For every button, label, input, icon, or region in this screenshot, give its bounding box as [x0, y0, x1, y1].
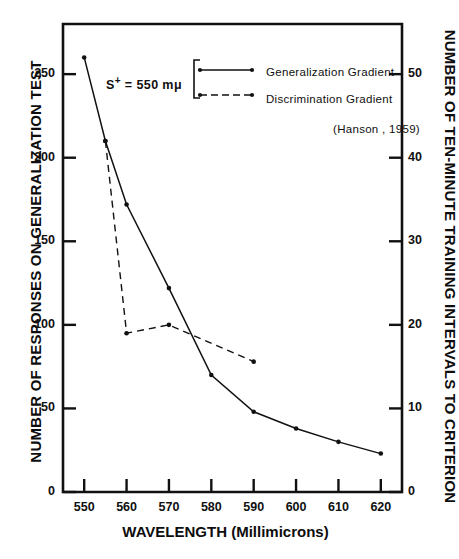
data-point: [251, 359, 256, 364]
data-series-layer: [82, 55, 383, 456]
x-axis-ticks: [84, 479, 381, 492]
y-tick-label-left: 0: [21, 484, 55, 498]
data-point: [379, 451, 384, 456]
y-axis-ticks-left: [63, 74, 76, 492]
legend-sample-dashed-marker-start: [198, 93, 202, 97]
data-point: [124, 331, 129, 336]
legend-sample-dashed-marker-end: [250, 93, 254, 97]
legend-sample-marks: [194, 60, 254, 98]
x-tick-label: 600: [276, 500, 316, 514]
x-tick-label: 570: [149, 500, 189, 514]
data-point: [124, 202, 129, 207]
y-tick-label-left: 100: [21, 317, 55, 331]
data-point: [251, 409, 256, 414]
series-generalization: [82, 55, 383, 456]
y-tick-label-right: 50: [408, 66, 442, 80]
x-tick-label: 550: [64, 500, 104, 514]
y-tick-label-left: 50: [21, 400, 55, 414]
legend-bracket: [194, 60, 200, 98]
data-point: [294, 426, 299, 431]
x-tick-label: 610: [318, 500, 358, 514]
data-point: [82, 55, 87, 60]
y-tick-label-left: 250: [21, 66, 55, 80]
x-tick-label: 620: [361, 500, 401, 514]
series-line-1: [105, 141, 253, 362]
y-axis-ticks-right: [389, 74, 402, 492]
data-point: [167, 286, 172, 291]
y-tick-label-left: 200: [21, 150, 55, 164]
x-tick-label: 590: [234, 500, 274, 514]
y-tick-label-left: 150: [21, 233, 55, 247]
y-tick-label-right: 20: [408, 317, 442, 331]
series-discrimination: [103, 139, 256, 364]
series-line-0: [84, 57, 381, 453]
axis-frame: [63, 24, 402, 492]
y-tick-label-right: 30: [408, 233, 442, 247]
plot-border: [63, 24, 402, 492]
data-point: [209, 373, 214, 378]
y-tick-label-right: 0: [408, 484, 442, 498]
legend-sample-solid-marker-start: [198, 68, 202, 72]
x-tick-label: 560: [107, 500, 147, 514]
x-tick-label: 580: [191, 500, 231, 514]
y-tick-label-right: 10: [408, 400, 442, 414]
data-point: [336, 440, 341, 445]
y-tick-label-right: 40: [408, 150, 442, 164]
legend-sample-solid-marker-end: [250, 68, 254, 72]
data-point: [103, 139, 108, 144]
data-point: [167, 323, 172, 328]
